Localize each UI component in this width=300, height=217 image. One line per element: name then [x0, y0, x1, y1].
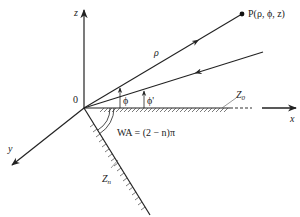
zn-label: Zn: [102, 173, 112, 186]
point-p-marker: [240, 12, 245, 17]
origin-label: 0: [73, 94, 78, 105]
x-axis-label: x: [289, 113, 295, 124]
rho-line: [84, 14, 242, 108]
phi-label: ϕ: [123, 95, 128, 106]
wedge-angle-label: WA = (2 − n)π: [117, 127, 175, 139]
z0-label: Z0: [236, 89, 246, 102]
z0-plane: [84, 108, 252, 112]
z0-leader-line: [222, 98, 236, 108]
rho-label: ρ: [153, 47, 159, 58]
phi-prime-label: ϕ': [147, 95, 154, 106]
diagram-canvas: z 0 x Z0 y: [0, 0, 300, 217]
point-p-label: P(ρ, ϕ, z): [248, 8, 285, 20]
y-axis-label: y: [7, 143, 13, 154]
z-axis-label: z: [73, 7, 78, 18]
y-axis: [12, 108, 84, 165]
